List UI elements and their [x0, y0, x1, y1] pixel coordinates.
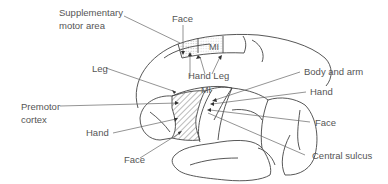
label-hand-right: Hand — [310, 87, 333, 97]
lateral-brain-outline — [140, 86, 317, 180]
label-leg: Leg — [92, 64, 108, 74]
label-sma-hand-leg: Hand Leg — [188, 71, 229, 81]
premotor-hatched-region — [172, 91, 205, 141]
label-supplementary-motor-area-line2: motor area — [59, 21, 105, 31]
label-face-right: Face — [315, 118, 336, 128]
label-supplementary-motor-area-line1: Supplementary — [59, 8, 123, 18]
label-sma-mi: MI — [209, 42, 219, 52]
label-premotor-cortex-line1: Premotor — [21, 102, 60, 112]
label-premotor-cortex-line2: cortex — [21, 115, 47, 125]
brain-motor-areas-diagram: Supplementary motor area Face MI Hand Le… — [0, 0, 388, 184]
label-mi: MI — [201, 85, 211, 95]
upper-brain-outline — [136, 34, 331, 108]
label-body-and-arm: Body and arm — [304, 67, 363, 77]
label-hand-left: Hand — [86, 128, 109, 138]
label-central-sulcus: Central sulcus — [312, 151, 372, 161]
label-sma-face: Face — [172, 14, 193, 24]
label-face-left: Face — [124, 155, 145, 165]
